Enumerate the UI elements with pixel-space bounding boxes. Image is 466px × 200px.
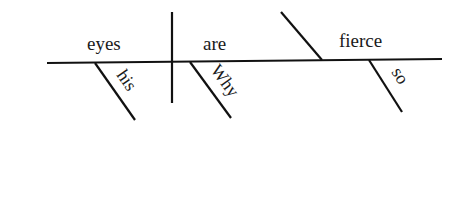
modifier-word-so: so: [388, 64, 413, 88]
predicate-adjective-word: fierce: [339, 30, 382, 51]
predicate-adjective-slash: [281, 12, 322, 60]
modifier-word-his: his: [113, 66, 141, 95]
sentence-diagram: eyes are fierce his Why so: [0, 0, 466, 200]
verb-word: are: [203, 33, 226, 54]
modifier-word-why: Why: [207, 61, 244, 101]
subject-word: eyes: [87, 33, 121, 54]
main-baseline: [47, 59, 442, 63]
